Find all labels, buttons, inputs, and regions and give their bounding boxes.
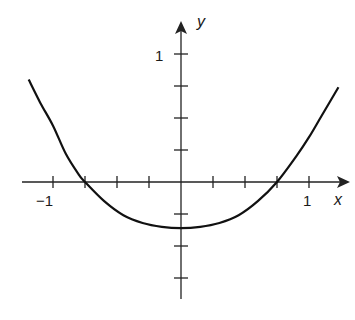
x-tick-label-1: 1: [303, 193, 311, 208]
y-axis-label: y: [197, 14, 205, 30]
chart: y x −1 1 1: [0, 0, 355, 320]
axes: [22, 21, 350, 299]
x-axis-label: x: [334, 192, 342, 208]
y-tick-label-1: 1: [155, 48, 163, 63]
curve-line: [29, 80, 339, 228]
x-tick-label-neg1: −1: [36, 193, 53, 208]
plot-area: [0, 0, 355, 320]
